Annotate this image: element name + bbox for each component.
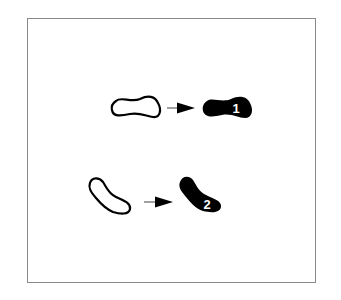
footprint-filled-icon — [203, 97, 252, 118]
right-arrow-icon — [167, 103, 195, 114]
footprint-outline-icon — [112, 97, 160, 117]
footprint-filled-icon — [179, 177, 221, 212]
right-arrow-icon — [144, 197, 173, 208]
step-1-label: 1 — [232, 101, 239, 116]
footprint-diagram: 1 2 — [0, 0, 341, 300]
step-1: 1 — [112, 97, 252, 118]
step-2-label: 2 — [203, 197, 210, 212]
step-2: 2 — [89, 177, 221, 214]
footprint-outline-icon — [89, 178, 130, 213]
